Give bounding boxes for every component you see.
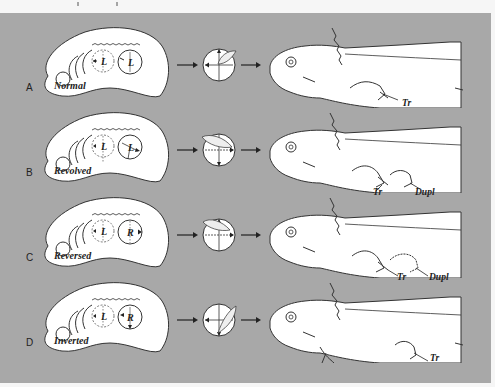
disc-label: L bbox=[100, 311, 107, 322]
arrow-right-icon bbox=[241, 147, 261, 153]
disc-label: L bbox=[100, 56, 107, 67]
limb-disc-icon bbox=[203, 49, 236, 81]
disc-label: L bbox=[127, 57, 134, 68]
arrow-right-icon bbox=[177, 317, 198, 323]
arrow-right-icon bbox=[177, 232, 198, 238]
row-b-drawing: L L bbox=[0, 103, 491, 193]
row-letter: C bbox=[26, 252, 33, 263]
disc-label: L bbox=[100, 141, 107, 152]
salamander-larva-icon bbox=[270, 113, 461, 193]
disc-label: R bbox=[126, 312, 134, 323]
salamander-larva-icon bbox=[270, 198, 461, 278]
row-caption: Revolved bbox=[54, 165, 91, 176]
label-tr: Tr bbox=[430, 353, 439, 363]
row-letter: A bbox=[26, 82, 33, 93]
row-b: L L B Rev bbox=[0, 103, 491, 193]
row-caption: Reversed bbox=[54, 250, 91, 261]
salamander-larva-icon bbox=[270, 283, 463, 363]
arrow-right-icon bbox=[177, 62, 198, 68]
row-a-drawing: L L bbox=[0, 18, 491, 108]
row-d: L R D Inv bbox=[0, 273, 491, 363]
arrow-right-icon bbox=[177, 147, 198, 153]
limb-disc-icon bbox=[203, 304, 236, 336]
top-margin bbox=[0, 0, 495, 13]
limb-disc-icon bbox=[203, 219, 235, 251]
row-letter: D bbox=[26, 337, 33, 348]
limb-disc-icon bbox=[202, 134, 235, 166]
disc-label: R bbox=[126, 227, 134, 238]
row-d-drawing: L R bbox=[0, 273, 491, 363]
row-letter: B bbox=[26, 167, 33, 178]
disc-label: L bbox=[127, 142, 134, 153]
row-c: L R C Rev bbox=[0, 188, 491, 278]
disc-label: L bbox=[100, 226, 107, 237]
arrow-right-icon bbox=[241, 232, 261, 238]
row-caption: Inverted bbox=[54, 335, 88, 346]
row-a: L L bbox=[0, 18, 491, 108]
salamander-larva-icon bbox=[270, 28, 463, 108]
arrow-right-icon bbox=[241, 317, 261, 323]
row-c-drawing: L R bbox=[0, 188, 491, 278]
row-caption: Normal bbox=[54, 80, 86, 91]
arrow-right-icon bbox=[241, 62, 261, 68]
